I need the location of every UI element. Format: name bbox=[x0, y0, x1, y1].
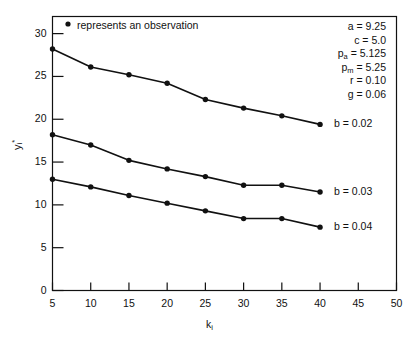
y-axis-title-sup: * bbox=[10, 140, 19, 143]
data-point bbox=[164, 166, 169, 171]
y-axis-title: yi* bbox=[10, 140, 24, 150]
y-tick-label: 30 bbox=[21, 27, 47, 39]
y-tick-label: 15 bbox=[21, 155, 47, 167]
data-point bbox=[241, 105, 246, 110]
curve-end-label: b = 0.02 bbox=[334, 117, 372, 129]
curve-b-0-02 bbox=[53, 49, 321, 124]
data-point bbox=[317, 122, 322, 127]
y-axis-title-sub: i bbox=[15, 143, 24, 145]
data-point bbox=[164, 200, 169, 205]
x-tick-label: 50 bbox=[384, 297, 410, 309]
data-point bbox=[126, 72, 131, 77]
parameter-value: = 0.06 bbox=[354, 88, 386, 100]
data-point bbox=[279, 182, 284, 187]
legend-label: represents an observation bbox=[77, 19, 198, 31]
x-tick-label: 35 bbox=[269, 297, 295, 309]
parameter-line: c = 5.0 bbox=[300, 34, 386, 46]
x-tick-label: 40 bbox=[307, 297, 333, 309]
parameter-value: = 5.125 bbox=[348, 47, 386, 59]
data-point bbox=[203, 208, 208, 213]
data-point bbox=[50, 132, 55, 137]
parameter-line: r = 0.10 bbox=[300, 74, 386, 86]
parameter-line: g = 0.06 bbox=[300, 88, 386, 100]
data-point bbox=[317, 189, 322, 194]
data-point bbox=[203, 97, 208, 102]
data-curves bbox=[53, 49, 321, 227]
parameter-line: pm = 5.25 bbox=[300, 61, 386, 75]
x-tick-label: 5 bbox=[40, 297, 66, 309]
y-axis-title-base: y bbox=[11, 145, 23, 151]
figure-canvas: represents an observation yi* ki 0510152… bbox=[0, 0, 419, 338]
parameter-value: = 5.25 bbox=[354, 61, 386, 73]
y-tick-label: 25 bbox=[21, 69, 47, 81]
y-tick-label: 5 bbox=[21, 241, 47, 253]
data-point bbox=[164, 81, 169, 86]
x-tick-label: 45 bbox=[345, 297, 371, 309]
parameter-line: pa = 5.125 bbox=[300, 47, 386, 61]
y-axis-ticks bbox=[53, 34, 64, 291]
data-point bbox=[279, 216, 284, 221]
x-tick-label: 30 bbox=[231, 297, 257, 309]
parameter-line: a = 9.25 bbox=[300, 20, 386, 32]
data-point bbox=[317, 224, 322, 229]
x-tick-label: 20 bbox=[154, 297, 180, 309]
data-point bbox=[241, 216, 246, 221]
x-tick-label: 10 bbox=[78, 297, 104, 309]
x-tick-label: 15 bbox=[116, 297, 142, 309]
y-tick-label: 0 bbox=[21, 284, 47, 296]
parameter-value: = 5.0 bbox=[359, 34, 386, 46]
data-point bbox=[88, 64, 93, 69]
curve-end-label: b = 0.03 bbox=[334, 185, 372, 197]
x-axis-title-sub: i bbox=[211, 323, 213, 332]
data-point bbox=[126, 158, 131, 163]
data-point bbox=[88, 142, 93, 147]
x-axis-ticks bbox=[53, 283, 397, 291]
x-tick-label: 25 bbox=[192, 297, 218, 309]
data-points bbox=[50, 46, 323, 230]
data-point bbox=[88, 184, 93, 189]
legend-marker-icon bbox=[65, 21, 70, 26]
curve-end-label: b = 0.04 bbox=[334, 220, 372, 232]
data-point bbox=[241, 182, 246, 187]
y-tick-label: 10 bbox=[21, 198, 47, 210]
parameter-value: = 0.10 bbox=[354, 74, 386, 86]
data-point bbox=[50, 46, 55, 51]
parameter-value: = 9.25 bbox=[354, 20, 386, 32]
data-point bbox=[50, 176, 55, 181]
x-axis-title: ki bbox=[206, 318, 213, 332]
data-point bbox=[279, 113, 284, 118]
data-point bbox=[126, 193, 131, 198]
data-point bbox=[203, 174, 208, 179]
y-tick-label: 20 bbox=[21, 112, 47, 124]
